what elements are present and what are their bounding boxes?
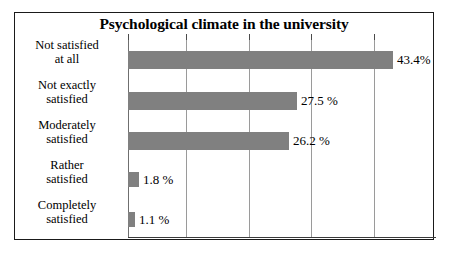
category-label-3-line2: satisfied [15, 173, 119, 187]
category-label-4: Completely satisfied [15, 199, 119, 226]
category-label-1-line2: satisfied [15, 93, 119, 107]
bar-3 [128, 172, 139, 187]
category-label-1: Not exactly satisfied [15, 79, 119, 106]
bar-value-1: 27.5 % [297, 93, 338, 109]
bar-value-0: 43.4% [393, 52, 431, 68]
category-label-0: Not satisfied at all [15, 39, 119, 66]
bar-1 [128, 92, 297, 110]
bar-row: 43.4% [128, 51, 436, 69]
category-label-0-line1: Not satisfied [15, 39, 119, 53]
bar-value-2: 26.2 % [289, 133, 330, 149]
category-label-4-line1: Completely [15, 199, 119, 213]
bar-value-4: 1.1 % [135, 212, 169, 228]
axis-tick-10 [186, 34, 187, 40]
chart-title: Psychological climate in the university [15, 15, 433, 33]
category-label-3: Rather satisfied [15, 159, 119, 186]
category-label-0-line2: at all [15, 53, 119, 67]
bar-row: 1.1 % [128, 212, 436, 227]
bar-value-3: 1.8 % [139, 172, 173, 188]
category-label-2-line2: satisfied [15, 133, 119, 147]
bar-2 [128, 132, 289, 150]
axis-tick-40 [374, 34, 375, 40]
bar-row: 27.5 % [128, 92, 436, 110]
bar-0 [128, 51, 393, 69]
bar-row: 1.8 % [128, 172, 436, 187]
category-axis-line [128, 237, 436, 238]
axis-tick-0 [128, 34, 129, 40]
category-label-3-line1: Rather [15, 159, 119, 173]
axis-tick-30 [311, 34, 312, 40]
bar-row: 26.2 % [128, 132, 436, 150]
plot-area: 43.4% 27.5 % 26.2 % 1.8 % 1.1 % [128, 39, 436, 238]
category-label-2: Moderately satisfied [15, 119, 119, 146]
category-label-4-line2: satisfied [15, 213, 119, 227]
category-label-2-line1: Moderately [15, 119, 119, 133]
axis-tick-20 [249, 34, 250, 40]
bar-4 [128, 212, 135, 227]
category-axis-labels: Not satisfied at all Not exactly satisfi… [15, 39, 125, 238]
category-label-1-line1: Not exactly [15, 79, 119, 93]
chart-frame: Psychological climate in the university … [14, 12, 434, 240]
